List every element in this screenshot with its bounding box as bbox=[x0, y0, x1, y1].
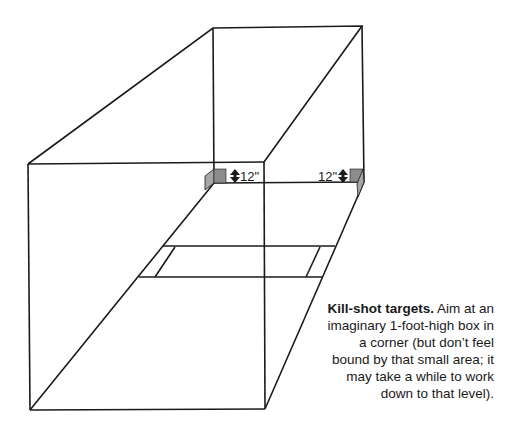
back-floor-edge bbox=[214, 182, 364, 183]
right-double-arrow-icon bbox=[338, 169, 348, 183]
front-bottom-edge bbox=[30, 409, 265, 410]
right-target-box bbox=[350, 169, 364, 197]
ceiling-outline bbox=[28, 26, 362, 164]
floor-left-edge bbox=[30, 183, 214, 410]
back-right-edge bbox=[362, 26, 364, 182]
front-top-edge bbox=[28, 162, 264, 164]
left-target-box bbox=[205, 169, 226, 190]
back-left-edge bbox=[213, 28, 214, 183]
left-target-front bbox=[214, 169, 226, 183]
service-box-right bbox=[306, 247, 320, 277]
right-corner-height-label: 12" bbox=[318, 170, 337, 183]
front-left-edge bbox=[28, 164, 30, 410]
left-target-side bbox=[205, 169, 214, 190]
caption-heading: Kill-shot targets. bbox=[327, 301, 434, 316]
front-right-edge bbox=[264, 162, 265, 409]
left-double-arrow-icon bbox=[230, 169, 240, 183]
figure-caption: Kill-shot targets. Aim at an imaginary 1… bbox=[318, 300, 494, 402]
left-corner-height-label: 12" bbox=[240, 170, 259, 183]
caption-body: Aim at an imaginary 1-foot-high box in a… bbox=[327, 301, 494, 401]
